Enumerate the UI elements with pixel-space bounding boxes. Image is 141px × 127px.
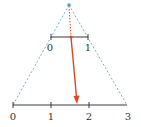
top-label-1: 1 — [85, 42, 91, 53]
mapped-point — [69, 35, 72, 38]
bottom-label-2: 2 — [86, 111, 92, 122]
top-label-0: 0 — [47, 42, 53, 53]
right-dashed-ray — [69, 5, 127, 105]
projection-arrow-shaft — [71, 37, 77, 97]
projection-diagram: 0 1 0 1 2 3 — [0, 0, 141, 127]
apex-to-point-dotted — [69, 6, 71, 36]
bottom-label-3: 3 — [125, 111, 131, 122]
bottom-number-line: 0 1 2 3 — [10, 102, 131, 122]
arrowhead-icon — [74, 96, 80, 105]
apex-point — [67, 3, 71, 7]
bottom-label-1: 1 — [48, 111, 54, 122]
left-dashed-ray — [13, 5, 69, 105]
bottom-label-0: 0 — [10, 111, 16, 122]
top-number-line: 0 1 — [47, 34, 91, 53]
